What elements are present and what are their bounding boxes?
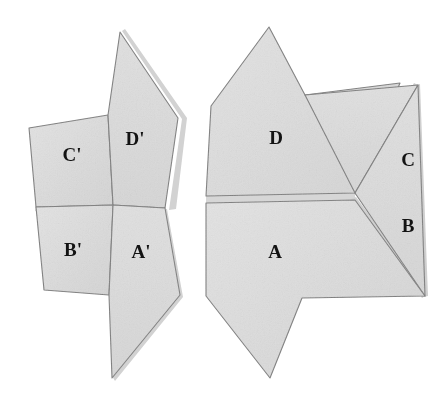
label-a-prime: A'	[132, 241, 151, 262]
dissection-figure: C' D' B' A' D C B A	[0, 0, 447, 408]
label-d: D	[269, 127, 283, 148]
dissection-canvas: C' D' B' A' D C B A	[0, 0, 447, 408]
label-b-prime: B'	[64, 239, 82, 260]
label-d-prime: D'	[126, 128, 145, 149]
label-c: C	[401, 149, 415, 170]
label-a: A	[268, 241, 282, 262]
label-c-prime: C'	[63, 144, 82, 165]
label-b: B	[402, 215, 415, 236]
